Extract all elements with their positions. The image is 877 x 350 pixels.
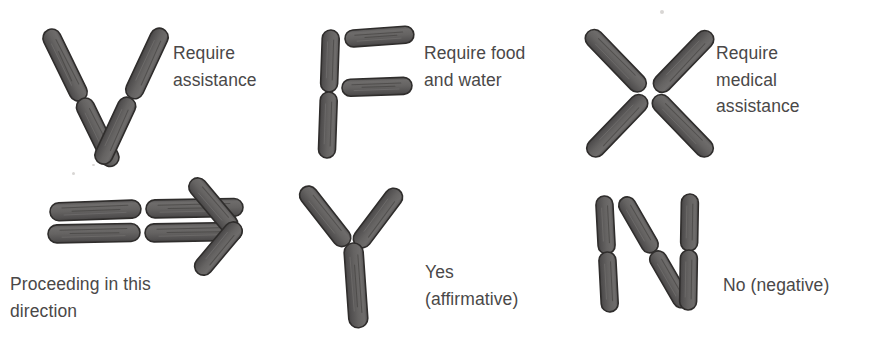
signal-label-require-medical-assistance: Require medical assistance [716, 40, 800, 120]
signal-label-no-negative: No (negative) [723, 272, 829, 299]
x-signal [582, 26, 718, 161]
signal-label-require-assistance: Require assistance [173, 40, 257, 93]
signal-label-yes-affirmative: Yes (affirmative) [425, 259, 518, 312]
arrow-signal [48, 174, 246, 279]
n-signal [596, 194, 699, 313]
f-signal [318, 26, 414, 159]
signal-label-proceeding-in-this-direction: Proceeding in this direction [10, 271, 151, 324]
y-signal [296, 182, 406, 328]
v-signal [40, 25, 171, 169]
signal-label-require-food-and-water: Require food and water [424, 40, 525, 93]
signal-chart-sheet: .log { fill:url(#logGrad); stroke:#2f2d2… [0, 0, 877, 350]
